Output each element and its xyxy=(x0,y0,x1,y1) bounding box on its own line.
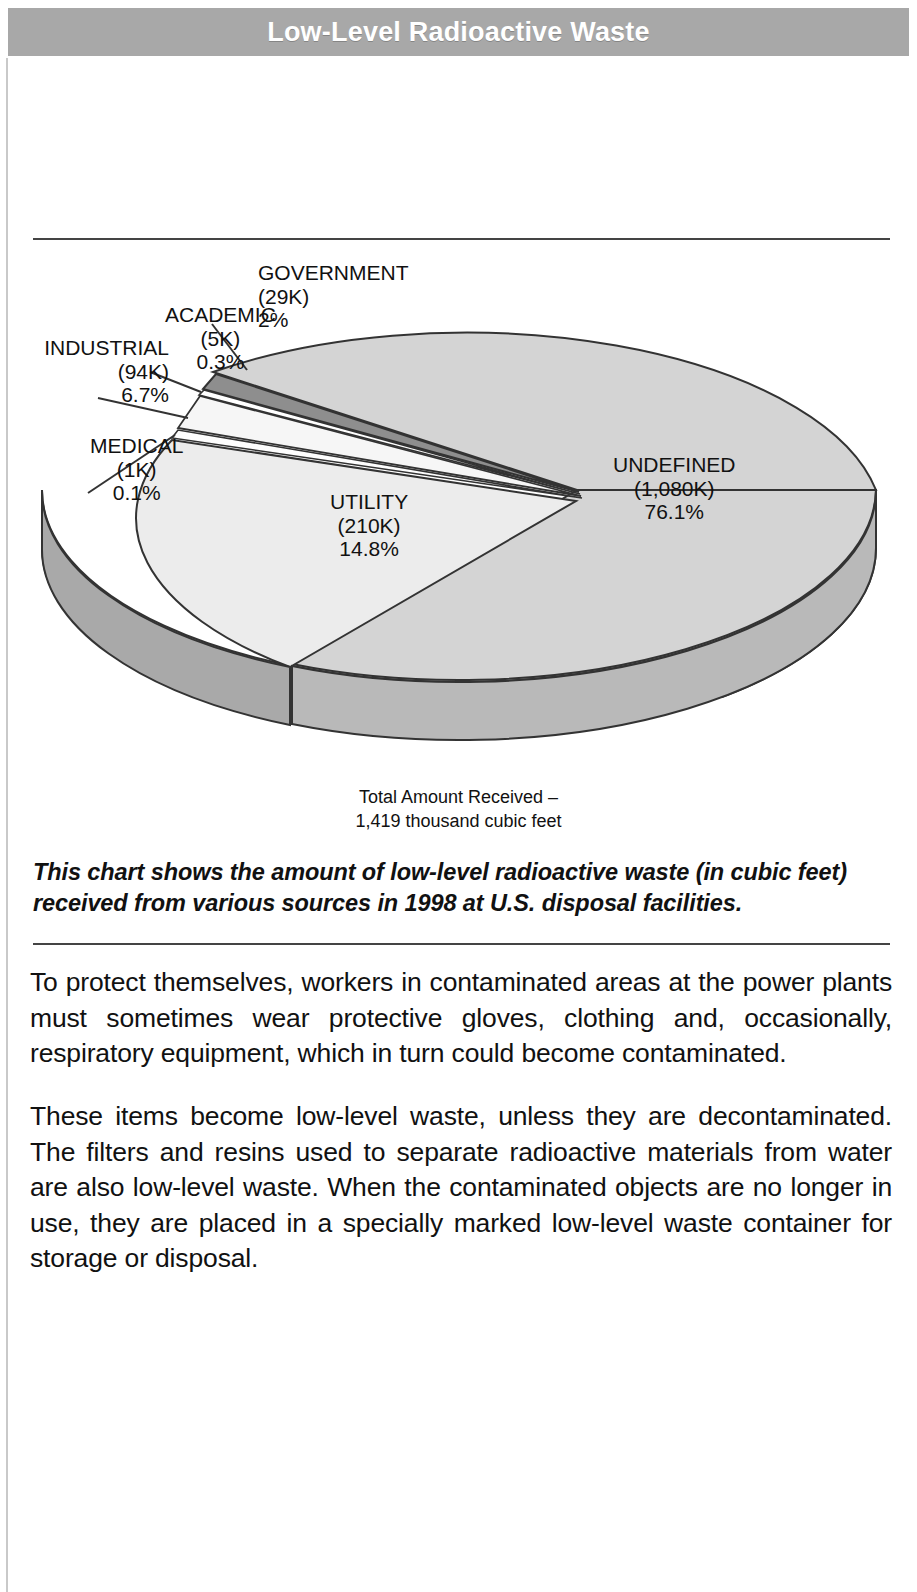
total-label: Total Amount Received – xyxy=(0,786,917,810)
page-root: Low-Level Radioactive Waste xyxy=(0,0,917,1592)
total-value: 1,419 thousand cubic feet xyxy=(0,810,917,834)
body-paragraph-1: To protect themselves, workers in contam… xyxy=(30,965,892,1072)
pie-label-government: GOVERNMENT (29K) 2% xyxy=(258,261,409,332)
pie-label-undefined: UNDEFINED (1,080K) 76.1% xyxy=(613,453,736,524)
pie-label-utility: UTILITY (210K) 14.8% xyxy=(330,490,408,561)
divider-above-chart xyxy=(33,238,890,240)
body-copy: To protect themselves, workers in contam… xyxy=(30,965,892,1277)
pie-label-medical: MEDICAL (1K) 0.1% xyxy=(90,434,183,505)
pie-chart: INDUSTRIAL (94K) 6.7% ACADEMIC (5K) 0.3%… xyxy=(0,248,917,848)
divider-below-caption xyxy=(33,943,890,945)
body-paragraph-2: These items become low-level waste, unle… xyxy=(30,1099,892,1277)
page-title: Low-Level Radioactive Waste xyxy=(267,17,650,48)
pie-label-industrial: INDUSTRIAL (94K) 6.7% xyxy=(44,336,169,407)
header-banner: Low-Level Radioactive Waste xyxy=(8,8,909,56)
chart-total-caption: Total Amount Received – 1,419 thousand c… xyxy=(0,786,917,834)
chart-caption: This chart shows the amount of low-level… xyxy=(33,857,893,920)
